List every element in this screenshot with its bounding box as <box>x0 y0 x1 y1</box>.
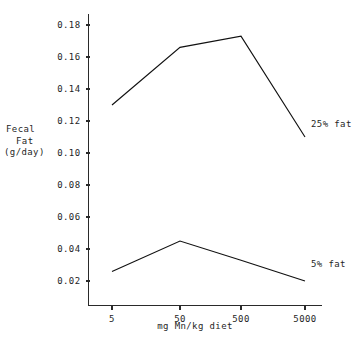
x-axis-title: mg Mn/kg diet <box>110 321 280 331</box>
y-tick-label: 0.02 <box>47 276 81 286</box>
y-tick-label: 0.06 <box>47 212 81 222</box>
series-label-25-percent-fat: 25% fat <box>311 119 352 129</box>
y-axis-title-line-2: Fat <box>4 136 66 148</box>
y-tick-label: 0.04 <box>47 244 81 254</box>
y-tick-label: 0.08 <box>47 180 81 190</box>
y-tick-label: 0.14 <box>47 84 81 94</box>
y-axis-title-line-1: Fecal <box>4 124 66 136</box>
chart-axes <box>86 14 323 310</box>
x-tick-label: 5000 <box>285 314 325 324</box>
series-label-5-percent-fat: 5% fat <box>311 259 346 269</box>
series-line-5-fat <box>112 241 305 281</box>
series-line-25-fat <box>112 36 305 137</box>
y-axis-title: Fecal Fat (g/day) <box>4 124 66 159</box>
y-tick-label: 0.16 <box>47 52 81 62</box>
y-axis-title-line-3: (g/day) <box>4 147 66 159</box>
y-tick-label: 0.18 <box>47 20 81 30</box>
chart-series-group <box>112 36 305 281</box>
